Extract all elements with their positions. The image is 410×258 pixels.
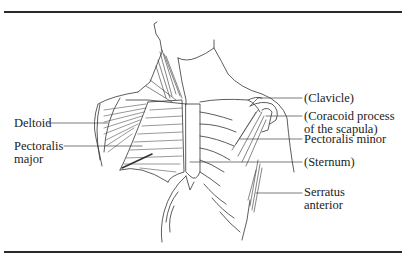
- sternum-bone: [186, 104, 200, 190]
- ribcage: [161, 99, 260, 242]
- label-text: anterior: [304, 199, 345, 212]
- label-text: major: [14, 153, 63, 166]
- label-serratus-anterior: Serratus anterior: [304, 186, 345, 212]
- label-text: (Sternum): [304, 155, 355, 169]
- serratus-anterior-muscle: [248, 160, 262, 212]
- label-text: (Clavicle): [304, 91, 354, 105]
- leader-lines: [48, 98, 302, 193]
- label-pectoralis-minor: Pectoralis minor: [304, 133, 386, 146]
- label-pectoralis-major: Pectoralis major: [14, 140, 63, 166]
- neck-outline: [138, 22, 294, 172]
- label-text: Pectoralis minor: [304, 132, 386, 146]
- label-sternum: (Sternum): [304, 156, 355, 169]
- pectoralis-major-muscle: [120, 100, 184, 182]
- deltoid-muscle: [94, 92, 186, 166]
- label-deltoid: Deltoid: [14, 117, 52, 130]
- label-text: Deltoid: [14, 116, 52, 130]
- pectoralis-minor-muscle: [232, 110, 266, 166]
- label-clavicle: (Clavicle): [304, 92, 354, 105]
